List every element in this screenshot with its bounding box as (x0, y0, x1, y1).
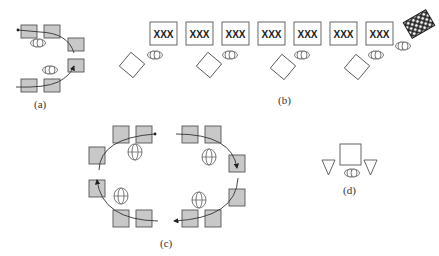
panel-b: XXX XXX XXX XXX XXX XXX XXX (119, 10, 434, 107)
svg-text:XXX: XXX (189, 29, 209, 40)
triangle-station (364, 160, 377, 175)
panel-d: (d) (322, 144, 377, 197)
workstation (205, 210, 221, 227)
panel-label-d: (d) (343, 184, 356, 197)
diamond-station (344, 54, 369, 79)
panel-a: (a) (16, 25, 84, 111)
operator-icon (345, 169, 360, 177)
workstation (205, 126, 221, 143)
panel-label-a: (a) (34, 98, 47, 111)
svg-text:XXX: XXX (297, 29, 317, 40)
operator-icon (192, 192, 206, 208)
machine-square (340, 144, 361, 165)
workstation (229, 155, 245, 172)
svg-text:XXX: XXX (333, 29, 353, 40)
operator-icon (148, 51, 163, 59)
diamond-station (119, 52, 144, 77)
operator-icon (223, 51, 238, 59)
operator-icon (295, 51, 310, 59)
machine-xxx: XXX (330, 22, 357, 45)
svg-text:XXX: XXX (261, 29, 281, 40)
operator-icon (114, 188, 128, 204)
pallet-icon (403, 10, 435, 39)
operator-icon (128, 144, 142, 160)
machine-xxx: XXX (222, 22, 249, 45)
layout-diagram-canvas: (a) XXX XXX XXX XXX XXX XXX XXX (0, 0, 439, 256)
machine-xxx: XXX (294, 22, 321, 45)
diamond-station (270, 54, 295, 79)
workstation (229, 189, 245, 206)
operator-icon (31, 39, 46, 47)
panel-label-c: (c) (160, 237, 173, 250)
svg-text:XXX: XXX (369, 29, 389, 40)
workstation (113, 210, 129, 227)
workstation (113, 126, 129, 143)
machine-xxx: XXX (366, 22, 393, 45)
operator-icon (396, 42, 411, 50)
operator-icon (202, 149, 216, 165)
panel-label-b: (b) (278, 94, 291, 107)
workstation (68, 59, 84, 72)
triangle-station (322, 160, 335, 175)
workstation (136, 210, 152, 227)
machine-xxx: XXX (258, 22, 285, 45)
machine-xxx: XXX (150, 22, 177, 45)
workstation (21, 79, 37, 92)
operator-icon (43, 66, 58, 74)
operator-icon (369, 51, 384, 59)
machine-xxx: XXX (186, 22, 213, 45)
diamond-station (196, 52, 221, 77)
svg-text:XXX: XXX (225, 29, 245, 40)
workstation (44, 25, 60, 38)
svg-text:XXX: XXX (153, 29, 173, 40)
panel-c: (c) (89, 126, 245, 250)
